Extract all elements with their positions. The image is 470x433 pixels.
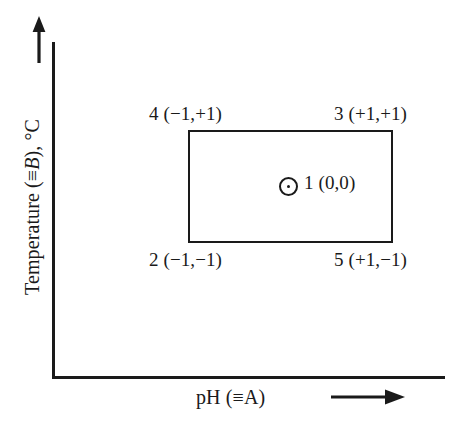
corner-label-top-left: 4 (−1,+1) bbox=[149, 103, 222, 125]
center-point-icon bbox=[279, 177, 298, 196]
x-axis-title-suffix: ) bbox=[258, 386, 265, 408]
up-arrow-icon bbox=[29, 16, 49, 64]
y-axis-line bbox=[52, 42, 55, 379]
x-axis-factor-symbol: A bbox=[244, 386, 259, 408]
center-point-label: 1 (0,0) bbox=[304, 172, 355, 194]
right-arrow-icon bbox=[331, 385, 405, 409]
y-axis-factor-symbol: B bbox=[21, 158, 43, 170]
y-axis-title-prefix: Temperature (≡ bbox=[21, 170, 43, 295]
design-space-figure: Temperature (≡B), °C pH (≡A) 4 (−1,+1) 3… bbox=[0, 0, 470, 433]
corner-label-bottom-right: 5 (+1,−1) bbox=[334, 249, 407, 271]
x-axis-line bbox=[52, 376, 445, 379]
corner-label-bottom-left: 2 (−1,−1) bbox=[149, 249, 222, 271]
y-axis-title-suffix: ), °C bbox=[21, 119, 43, 158]
x-axis-title: pH (≡A) bbox=[196, 383, 265, 411]
y-axis-title: Temperature (≡B), °C bbox=[15, 87, 49, 327]
corner-label-top-right: 3 (+1,+1) bbox=[334, 103, 407, 125]
x-axis-title-prefix: pH (≡ bbox=[196, 386, 244, 408]
